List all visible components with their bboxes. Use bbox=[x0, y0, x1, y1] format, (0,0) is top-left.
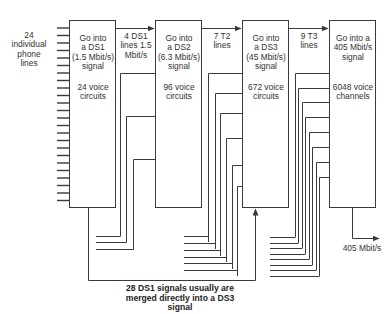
mux405-extra-inputs bbox=[270, 74, 329, 277]
box-ds2-capacity: 96 voice circuits bbox=[156, 83, 202, 102]
box-405-title: Go into a 405 Mbit/s signal bbox=[330, 34, 376, 62]
box-405-capacity: 6048 voice channels bbox=[330, 83, 376, 102]
input-phone-line-ticks bbox=[57, 28, 69, 201]
output-label: 405 Mbit/s bbox=[338, 244, 386, 253]
link-label-7-t2: 7 T2 lines bbox=[202, 32, 242, 51]
link-label-9-t3: 9 T3 lines bbox=[289, 32, 329, 51]
link-label-4-ds1: 4 DS1 lines 1.5 Mbit/s bbox=[115, 32, 157, 60]
ds3-extra-inputs bbox=[184, 74, 242, 277]
box-ds1-capacity: 24 voice circuits bbox=[70, 83, 116, 102]
ds1-direct-to-ds3-path bbox=[89, 208, 256, 281]
box-ds3-title: Go into a DS3 (45 Mbit/s) signal bbox=[243, 34, 289, 72]
box-ds3-capacity: 672 voice circuits bbox=[243, 83, 289, 102]
output-405-arrow bbox=[353, 208, 380, 239]
box-ds2-title: Go into a DS2 (6.3 Mbit/s) signal bbox=[156, 34, 202, 72]
ds1-merge-note: 28 DS1 signals usually are merged direct… bbox=[118, 284, 242, 313]
box-ds1-title: Go into a DS1 (1.5 Mbit/s) signal bbox=[70, 34, 116, 72]
input-label: 24 individual phone lines bbox=[4, 31, 54, 69]
